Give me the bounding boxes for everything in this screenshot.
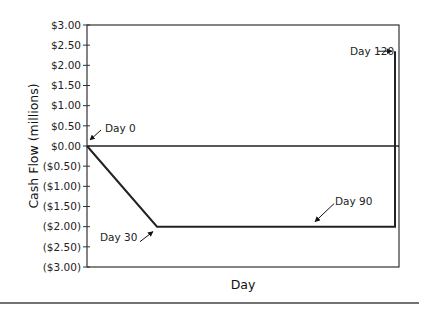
annotation-label: Day 120	[350, 45, 394, 57]
y-tick-label: $1.50	[51, 79, 81, 91]
y-tick-label: ($1.50)	[43, 200, 81, 212]
y-tick-label: $3.00	[51, 19, 81, 31]
annotation-arrow	[315, 204, 334, 222]
y-tick-label: $2.50	[51, 39, 81, 51]
y-tick-label: ($3.00)	[43, 261, 81, 273]
annotation-label: Day 30	[100, 231, 137, 243]
annotation-label: Day 90	[335, 195, 372, 207]
y-tick-label: ($0.50)	[43, 160, 81, 172]
annotation-arrow	[140, 232, 153, 242]
y-tick-label: ($2.00)	[43, 220, 81, 232]
y-tick-label: $0.50	[51, 120, 81, 132]
y-tick-label: ($2.50)	[43, 241, 81, 253]
y-tick-label: $2.00	[51, 59, 81, 71]
y-tick-label: $1.00	[51, 99, 81, 111]
cash-flow-chart: $3.00$2.50$2.00$1.50$1.00$0.50$0.00($0.5…	[0, 0, 421, 314]
y-tick-label: $0.00	[51, 140, 81, 152]
annotation-arrow	[90, 130, 101, 140]
annotation-label: Day 0	[105, 122, 136, 134]
y-tick-label: ($1.00)	[43, 180, 81, 192]
x-axis-title: Day	[231, 277, 256, 292]
y-axis-title: Cash Flow (millions)	[26, 83, 41, 208]
